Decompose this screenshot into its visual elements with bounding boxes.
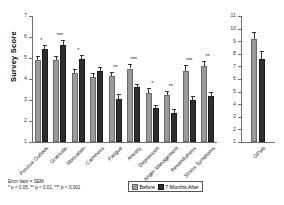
y-axis-tick xyxy=(238,129,241,130)
bar-before xyxy=(53,60,59,142)
y-axis-tick xyxy=(238,41,241,42)
y-axis-tick xyxy=(238,54,241,55)
bar-after xyxy=(42,49,48,142)
bar-before xyxy=(35,60,41,142)
error-bar-cap xyxy=(260,51,264,52)
error-bar-cap xyxy=(165,91,169,92)
significance-marker: ** xyxy=(105,65,125,70)
y-axis-tick-label: 7 xyxy=(17,13,27,18)
error-bar-cap xyxy=(36,56,40,57)
bar-before xyxy=(251,39,257,142)
significance-marker: *** xyxy=(124,57,144,62)
legend-item-before: Before xyxy=(132,184,155,190)
error-bar-cap xyxy=(117,94,121,95)
y-axis-tick xyxy=(238,104,241,105)
bar-after xyxy=(79,59,85,142)
bar-before xyxy=(164,95,170,142)
y-axis-tick xyxy=(238,142,241,143)
error-bar xyxy=(261,51,262,59)
y-axis-tick xyxy=(238,16,241,17)
error-bar-cap xyxy=(91,73,95,74)
error-bar-cap xyxy=(191,96,195,97)
significance-marker: ** xyxy=(161,84,181,89)
error-bar-cap xyxy=(54,56,58,57)
y-axis-tick xyxy=(29,142,32,143)
y-axis-tick-label: 10 xyxy=(226,26,236,31)
y-axis-tick-label: 8 xyxy=(226,51,236,56)
footnote-line-pvalues: * p < 0.05, ** p < 0.01, *** p < 0.001 xyxy=(8,185,80,191)
significance-marker: * xyxy=(142,81,162,86)
y-axis-tick-label: 5 xyxy=(17,55,27,60)
y-axis-tick-label: 1 xyxy=(226,139,236,144)
y-axis-tick-label: 11 xyxy=(226,13,236,18)
error-bar-cap xyxy=(128,64,132,65)
error-bar-cap xyxy=(209,92,213,93)
y-axis-tick xyxy=(29,121,32,122)
y-axis-tick-label: 2 xyxy=(17,118,27,123)
bar-before xyxy=(109,76,115,142)
bar-after xyxy=(134,87,140,142)
bar-after xyxy=(153,108,159,142)
y-axis-tick-label: 4 xyxy=(226,102,236,107)
significance-marker: *** xyxy=(179,58,199,63)
error-bar-cap xyxy=(110,72,114,73)
main-chart-panel: 1234567*Positive Outlook***Gratitude*Mot… xyxy=(32,16,217,142)
legend: Before 7 Months After xyxy=(128,181,203,192)
x-axis-line xyxy=(241,142,275,143)
y-axis-tick-label: 1 xyxy=(17,139,27,144)
error-bar-cap xyxy=(73,69,77,70)
error-bar xyxy=(254,32,255,39)
y-axis-tick-label: 4 xyxy=(17,76,27,81)
y-axis-line xyxy=(241,16,242,142)
bar-before xyxy=(146,93,152,142)
y-axis-tick xyxy=(29,16,32,17)
bar-after xyxy=(97,71,103,142)
significance-marker: * xyxy=(68,48,88,53)
y-axis-tick xyxy=(238,66,241,67)
bar-before xyxy=(72,73,78,142)
legend-swatch-after-icon xyxy=(158,184,164,190)
y-axis-tick xyxy=(238,29,241,30)
bar-before xyxy=(127,69,133,143)
bar-after xyxy=(171,113,177,142)
y-axis-tick xyxy=(238,92,241,93)
footnote: Error bars = SEM * p < 0.05, ** p < 0.01… xyxy=(8,179,80,191)
y-axis-tick xyxy=(29,79,32,80)
y-axis-tick xyxy=(238,79,241,80)
bar-after xyxy=(259,59,265,142)
legend-label-after: 7 Months After xyxy=(165,184,198,190)
gpwb-chart-panel: 1234567891011GPwb xyxy=(241,16,275,142)
bar-after xyxy=(208,96,214,142)
error-bar-cap xyxy=(252,32,256,33)
error-bar-cap xyxy=(202,61,206,62)
bar-after xyxy=(190,100,196,142)
error-bar-cap xyxy=(98,67,102,68)
error-bar-cap xyxy=(135,84,139,85)
x-axis-label: GPwb xyxy=(220,145,267,192)
bar-before xyxy=(90,77,96,142)
y-axis-tick xyxy=(29,100,32,101)
significance-marker: ** xyxy=(198,54,218,59)
y-axis-tick-label: 6 xyxy=(17,34,27,39)
y-axis-tick-label: 7 xyxy=(226,64,236,69)
error-bar-cap xyxy=(80,55,84,56)
error-bar-cap xyxy=(154,105,158,106)
y-axis-line xyxy=(32,16,33,142)
bar-before xyxy=(183,71,189,142)
y-axis-tick-label: 3 xyxy=(17,97,27,102)
error-bar-cap xyxy=(43,45,47,46)
bar-before xyxy=(201,66,207,142)
y-axis-tick-label: 5 xyxy=(226,89,236,94)
legend-swatch-before-icon xyxy=(132,184,138,190)
error-bar-cap xyxy=(147,88,151,89)
significance-marker: *** xyxy=(50,33,70,38)
legend-label-before: Before xyxy=(140,184,155,190)
y-axis-tick-label: 6 xyxy=(226,76,236,81)
legend-item-after: 7 Months After xyxy=(158,184,199,190)
y-axis-tick xyxy=(238,117,241,118)
figure-canvas: Survey Score 1234567*Positive Outlook***… xyxy=(0,0,284,205)
y-axis-tick-label: 2 xyxy=(226,127,236,132)
y-axis-tick-label: 3 xyxy=(226,114,236,119)
bar-after xyxy=(116,99,122,142)
bar-after xyxy=(60,45,66,142)
